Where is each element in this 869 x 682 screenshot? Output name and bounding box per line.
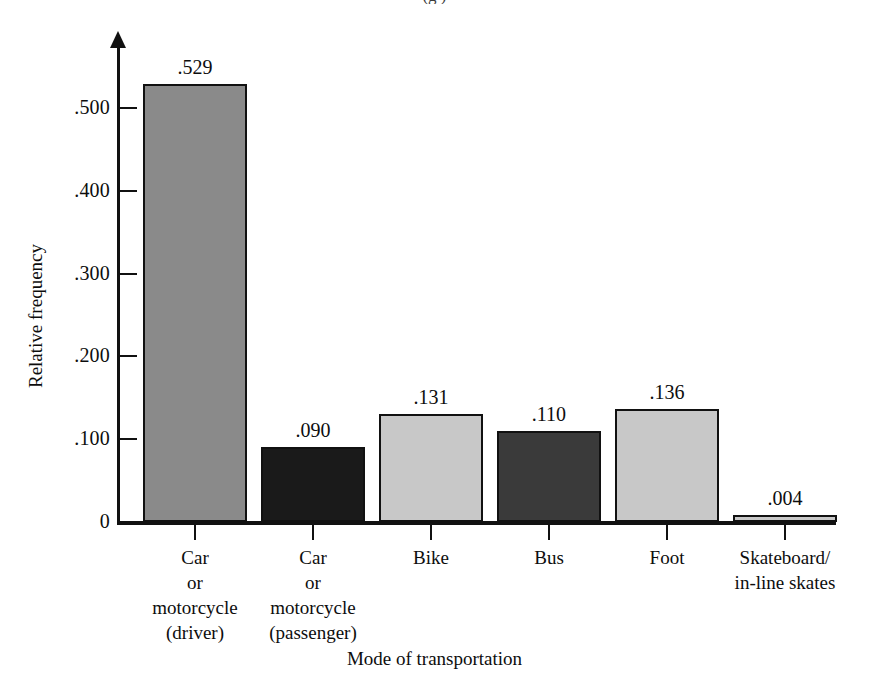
x-axis-category-label-line: or [213, 570, 413, 595]
bar-value-label: .004 [725, 487, 845, 509]
x-axis-category-label-line: motorcycle [213, 595, 413, 620]
bar [497, 431, 601, 522]
bar [615, 409, 719, 522]
bar-value-label: .136 [607, 381, 727, 403]
bar [733, 515, 837, 522]
x-axis-title: Mode of transportation [0, 648, 869, 670]
bar-value-label: .090 [253, 419, 373, 441]
x-axis-tick [548, 525, 550, 540]
bar-value-label: .110 [489, 403, 609, 425]
x-axis-category-label-line: Skateboard/ [685, 545, 869, 570]
x-axis-tick [312, 525, 314, 540]
x-axis-tick [784, 525, 786, 540]
bar [261, 447, 365, 522]
x-axis-tick [194, 525, 196, 540]
x-axis-category-label: Skateboard/in-line skates [685, 545, 869, 595]
bar-value-label: .131 [371, 386, 491, 408]
bar-chart-figure: (g ) Relative frequency 0.100.200.300.40… [0, 0, 869, 682]
x-axis-tick [666, 525, 668, 540]
x-axis-category-label-line: (passenger) [213, 620, 413, 645]
bar [379, 414, 483, 522]
x-axis-tick [430, 525, 432, 540]
bar [143, 84, 247, 522]
bar-value-label: .529 [135, 56, 255, 78]
x-axis-category-label-line: in-line skates [685, 570, 869, 595]
